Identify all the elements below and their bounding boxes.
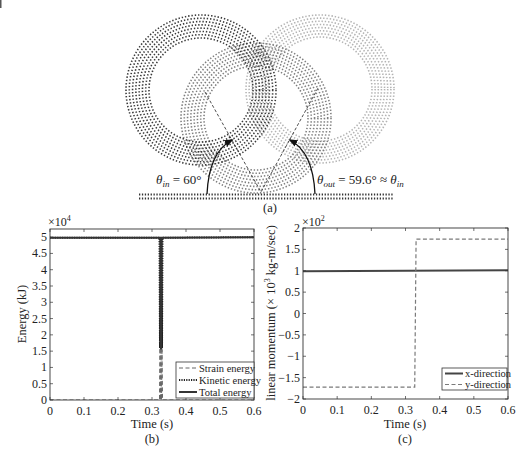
y-tick-label: 3 xyxy=(41,295,47,309)
particle-row xyxy=(142,31,259,148)
y-tick-label: −0.5 xyxy=(278,328,300,342)
y-tick-label: 2 xyxy=(294,221,300,235)
legend: Strain energyKinetic energyTotal energy xyxy=(176,362,262,398)
x-tick-label: 0.6 xyxy=(247,404,262,418)
x-tick-label: 0.2 xyxy=(364,403,379,417)
series-x-direction xyxy=(303,270,508,271)
particle-rings xyxy=(126,15,394,193)
x-tick-label: 0 xyxy=(47,404,53,418)
x-tick-label: 0.4 xyxy=(179,404,194,418)
legend-entry-label: Total energy xyxy=(199,387,252,398)
outgoing-ring xyxy=(126,15,276,165)
momentum-x-axis-label: Time (s) xyxy=(384,417,426,431)
particle-row xyxy=(139,28,263,152)
x-tick-label: 0.4 xyxy=(432,403,447,417)
momentum-y-axis-label: linear momentum (× 103 kg-m/sec) xyxy=(263,225,278,401)
y-tick-label: 5 xyxy=(41,230,47,244)
panel-a-label: (a) xyxy=(263,201,277,215)
particle-row xyxy=(129,18,272,161)
y-tick-label: 2 xyxy=(41,328,47,342)
legend-entry-label: y-direction xyxy=(465,379,512,390)
energy-scale-factor: ×104 xyxy=(48,214,71,229)
y-tick-label: 1.5 xyxy=(32,344,47,358)
y-tick-label: 0 xyxy=(41,393,47,407)
y-tick-label: 4.5 xyxy=(32,246,47,260)
y-tick-label: 1 xyxy=(294,264,300,278)
theta-out-subscript: out xyxy=(323,179,335,189)
x-tick-label: 0.1 xyxy=(77,404,92,418)
y-tick-label: 2.5 xyxy=(32,312,47,326)
figure: θin = 60° θout = 59.6° ≈ θin (a) 00.10.2… xyxy=(0,0,528,457)
energy-chart: 00.10.20.30.40.50.600.511.522.533.544.55… xyxy=(15,214,262,446)
x-tick-label: 0.6 xyxy=(501,403,516,417)
y-tick-label: −2 xyxy=(287,392,300,406)
particle-row xyxy=(255,24,384,153)
ylabel-units: kg-m/sec) xyxy=(264,225,278,278)
y-tick-label: 4 xyxy=(41,263,47,277)
momentum-chart: 00.10.20.30.40.50.6−2−1.5−1−0.500.511.52… xyxy=(263,214,516,446)
y-tick-label: 0.5 xyxy=(32,377,47,391)
theta-in-label: θin = 60° xyxy=(156,172,201,189)
legend-entry-label: Strain energy xyxy=(199,363,256,374)
panel-b-label: (b) xyxy=(145,432,160,446)
y-tick-label: 0 xyxy=(294,307,300,321)
x-tick-label: 0.3 xyxy=(398,403,413,417)
particle-row xyxy=(262,31,379,148)
scale-multiplier: ×10 xyxy=(302,215,321,229)
momentum-plot-area: 00.10.20.30.40.50.6−2−1.5−1−0.500.511.52… xyxy=(278,221,515,417)
y-tick-label: 3.5 xyxy=(32,279,47,293)
theta-out-value: = 59.6° ≈ xyxy=(335,172,390,187)
scale-exponent: 2 xyxy=(321,214,325,223)
momentum-scale-factor: ×102 xyxy=(302,214,325,229)
x-tick-label: 0.3 xyxy=(145,404,160,418)
y-tick-label: 1.5 xyxy=(285,242,300,256)
x-tick-label: 0.1 xyxy=(330,403,345,417)
legend-entry-label: x-direction xyxy=(465,368,512,379)
ylabel-text: linear momentum (× 10 xyxy=(264,282,278,400)
scale-multiplier: ×10 xyxy=(48,215,67,229)
theta-in-value: = 60° xyxy=(169,172,201,187)
energy-y-axis-label: Energy (kJ) xyxy=(15,285,29,343)
corner-mark xyxy=(0,0,2,8)
y-tick-label: 0.5 xyxy=(285,285,300,299)
legend-entry-label: Kinetic energy xyxy=(199,375,262,386)
y-tick-label: 1 xyxy=(41,360,47,374)
scale-exponent: 4 xyxy=(67,214,71,223)
theta-in-subscript: in xyxy=(397,179,405,189)
x-tick-label: 0.5 xyxy=(466,403,481,417)
panel-a-diagram: θin = 60° θout = 59.6° ≈ θin (a) xyxy=(126,15,404,215)
y-tick-label: −1 xyxy=(287,349,300,363)
x-tick-label: 0.2 xyxy=(111,404,126,418)
legend: x-directiony-direction xyxy=(442,368,512,390)
energy-plot-area: 00.10.20.30.40.50.600.511.522.533.544.55… xyxy=(32,229,262,418)
rigid-wall xyxy=(139,195,394,199)
particle-row xyxy=(249,18,391,160)
panel-c-label: (c) xyxy=(398,432,412,446)
theta-out-label: θout = 59.6° ≈ θin xyxy=(317,172,404,189)
x-tick-label: 0 xyxy=(300,403,306,417)
energy-x-axis-label: Time (s) xyxy=(131,417,173,431)
y-tick-label: −1.5 xyxy=(278,371,300,385)
x-tick-label: 0.5 xyxy=(213,404,228,418)
